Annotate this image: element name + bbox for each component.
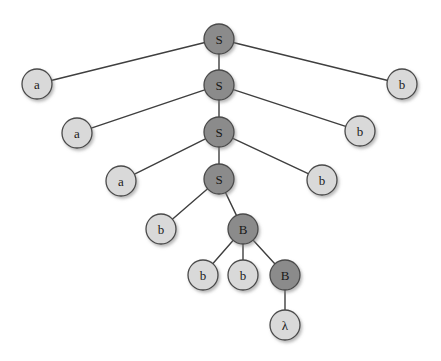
tree-node-circle[interactable] xyxy=(62,118,92,148)
tree-node-circle[interactable] xyxy=(204,164,234,194)
tree-node[interactable]: b xyxy=(387,69,417,99)
tree-node-circle[interactable] xyxy=(270,310,300,340)
tree-edge xyxy=(171,188,209,220)
tree-node[interactable]: λ xyxy=(270,310,300,340)
tree-node-circle[interactable] xyxy=(270,260,300,290)
tree-node[interactable]: B xyxy=(228,214,258,244)
tree-edge xyxy=(232,42,389,81)
tree-node[interactable]: b xyxy=(146,214,176,244)
tree-node-circle[interactable] xyxy=(204,24,234,54)
tree-edge xyxy=(231,138,310,175)
tree-edge xyxy=(133,138,207,175)
tree-node[interactable]: S xyxy=(204,24,234,54)
tree-node[interactable]: b xyxy=(345,116,375,146)
tree-edge xyxy=(252,239,276,265)
tree-node[interactable]: a xyxy=(62,118,92,148)
tree-node-circle[interactable] xyxy=(228,260,258,290)
tree-edge xyxy=(212,239,234,265)
tree-node-circle[interactable] xyxy=(387,69,417,99)
parse-tree-figure: SaSbaSbaSbbBbbBλ xyxy=(0,0,441,361)
tree-node-circle[interactable] xyxy=(307,165,337,195)
tree-node-circle[interactable] xyxy=(22,69,52,99)
parse-tree-canvas: SaSbaSbaSbbBbbBλ xyxy=(0,0,441,361)
tree-edge xyxy=(232,89,347,127)
tree-node-circle[interactable] xyxy=(146,214,176,244)
tree-node-circle[interactable] xyxy=(188,260,218,290)
tree-node[interactable]: b xyxy=(307,165,337,195)
tree-node[interactable]: S xyxy=(204,164,234,194)
tree-edge xyxy=(50,42,206,81)
tree-node[interactable]: S xyxy=(204,117,234,147)
tree-node[interactable]: a xyxy=(22,69,52,99)
tree-node-circle[interactable] xyxy=(345,116,375,146)
tree-node-circle[interactable] xyxy=(204,70,234,100)
node-layer: SaSbaSbaSbbBbbBλ xyxy=(22,24,417,340)
tree-node[interactable]: b xyxy=(188,260,218,290)
tree-node-circle[interactable] xyxy=(106,166,136,196)
tree-node[interactable]: B xyxy=(270,260,300,290)
tree-edge xyxy=(90,89,206,128)
tree-node[interactable]: a xyxy=(106,166,136,196)
tree-node[interactable]: S xyxy=(204,70,234,100)
tree-node-circle[interactable] xyxy=(228,214,258,244)
tree-node-circle[interactable] xyxy=(204,117,234,147)
tree-edge xyxy=(225,191,237,217)
tree-node[interactable]: b xyxy=(228,260,258,290)
